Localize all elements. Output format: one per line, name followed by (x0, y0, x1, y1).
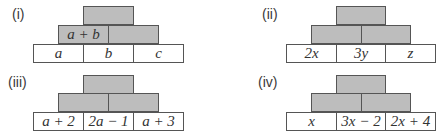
bottom-brick: 3y (336, 44, 386, 63)
middle-brick (58, 93, 109, 112)
bottom-brick: a + 3 (133, 112, 184, 131)
bottom-brick: b (83, 44, 134, 63)
top-brick (83, 75, 134, 94)
top-brick (83, 6, 134, 25)
middle-brick: a + b (58, 25, 109, 44)
middle-brick (108, 25, 159, 44)
pyramid-label-iii: (iii) (8, 74, 27, 90)
bottom-brick: a + 2 (33, 112, 84, 131)
bottom-brick: 2x + 4 (385, 112, 436, 131)
middle-brick (361, 93, 411, 112)
pyramid-label-ii: (ii) (262, 6, 278, 22)
bottom-brick: c (133, 44, 184, 63)
middle-brick (311, 93, 362, 112)
middle-brick (311, 25, 362, 44)
middle-brick (361, 25, 411, 44)
pyramid-label-iv: (iv) (258, 74, 277, 90)
middle-brick (108, 93, 159, 112)
pyramid-label-i: (i) (12, 6, 24, 22)
bottom-brick: 2x (286, 44, 337, 63)
bottom-brick: 2a − 1 (83, 112, 134, 131)
bottom-brick: x (286, 112, 337, 131)
bottom-brick: z (385, 44, 436, 63)
bottom-brick: 3x − 2 (336, 112, 386, 131)
top-brick (336, 6, 386, 25)
top-brick (336, 75, 386, 94)
bottom-brick: a (33, 44, 84, 63)
